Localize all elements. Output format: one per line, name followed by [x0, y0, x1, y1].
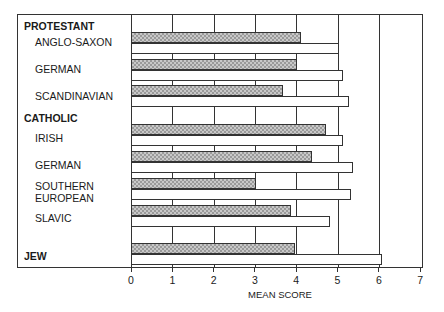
label-catholic-german: GERMAN — [35, 159, 81, 171]
x-tick-label-4: 4 — [286, 274, 306, 286]
group-label-jew: JEW — [24, 250, 47, 262]
label-anglo-saxon: ANGLO-SAXON — [35, 36, 112, 48]
bar-hatched-3 — [132, 124, 326, 135]
group-label-protestant: PROTESTANT — [24, 20, 94, 32]
x-tick-4 — [296, 268, 297, 272]
x-tick-label-5: 5 — [328, 274, 348, 286]
label-southern: SOUTHERN — [35, 180, 94, 192]
x-tick-label-7: 7 — [410, 274, 430, 286]
label-scandinavian: SCANDINAVIAN — [35, 90, 113, 102]
bar-open-1 — [132, 70, 343, 81]
x-tick-label-2: 2 — [204, 274, 224, 286]
group-label-catholic: CATHOLIC — [24, 112, 77, 124]
bar-hatched-7 — [132, 243, 295, 254]
bar-hatched-2 — [132, 85, 283, 96]
bar-open-4 — [132, 162, 353, 173]
bar-open-7 — [132, 254, 382, 265]
x-tick-label-3: 3 — [245, 274, 265, 286]
x-tick-1 — [172, 268, 173, 272]
x-tick-5 — [337, 268, 338, 272]
bar-hatched-4 — [132, 151, 312, 162]
x-tick-label-1: 1 — [162, 274, 182, 286]
label-protestant-german: GERMAN — [35, 63, 81, 75]
bar-hatched-6 — [132, 205, 291, 216]
x-axis-label: MEAN SCORE — [240, 289, 320, 300]
bar-open-2 — [132, 96, 349, 107]
label-european: EUROPEAN — [35, 192, 94, 204]
x-tick-7 — [420, 268, 421, 272]
category-labels: PROTESTANT ANGLO-SAXON GERMAN SCANDINAVI… — [17, 14, 131, 268]
x-tick-label-0: 0 — [121, 274, 141, 286]
label-irish: IRISH — [35, 132, 63, 144]
bar-hatched-0 — [132, 32, 301, 43]
label-slavic: SLAVIC — [35, 212, 72, 224]
x-tick-0 — [131, 268, 132, 272]
bar-hatched-1 — [132, 59, 297, 70]
gridline-6 — [379, 14, 380, 268]
bar-hatched-5 — [132, 178, 256, 189]
x-tick-6 — [378, 268, 379, 272]
bar-open-3 — [132, 135, 343, 146]
bar-open-0 — [132, 43, 339, 54]
plot-area — [131, 14, 423, 268]
bar-open-6 — [132, 216, 330, 227]
x-tick-label-6: 6 — [369, 274, 389, 286]
x-tick-3 — [254, 268, 255, 272]
x-tick-2 — [213, 268, 214, 272]
bar-open-5 — [132, 189, 351, 200]
